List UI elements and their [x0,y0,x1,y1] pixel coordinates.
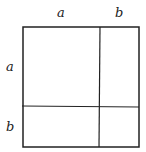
left-label-b: b [6,120,14,133]
top-label-b: b [115,6,123,19]
vertical-divider [99,27,100,147]
outer-square [23,27,139,147]
square-diagram [0,0,146,152]
top-label-a: a [57,6,65,19]
left-label-a: a [6,60,14,73]
horizontal-divider [22,106,139,107]
